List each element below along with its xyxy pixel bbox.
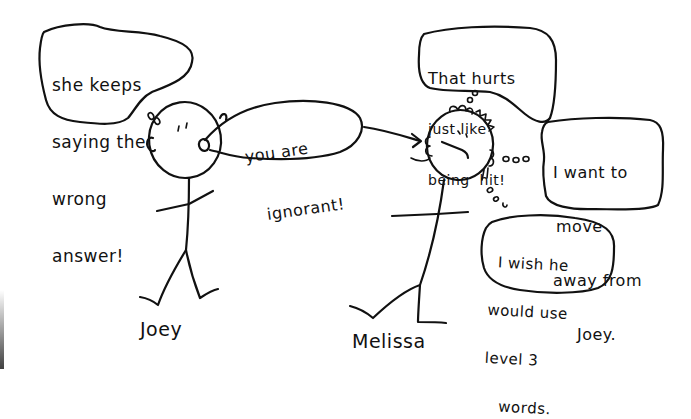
joey-leg-left: [140, 250, 186, 305]
joey-thought-line-2: saying the: [52, 133, 146, 152]
melissa-thought-top-text: That hurts just like being hit!: [428, 36, 516, 223]
melissa-thought-top-line-3: being hit!: [428, 172, 516, 189]
melissa-leg-right: [418, 285, 446, 323]
melissa-thought-bottom-line-4: words.: [482, 398, 563, 418]
joey-leg-right: [186, 250, 218, 298]
joey-thought-line-3: wrong: [52, 190, 146, 209]
joey-eye-right: [186, 123, 187, 128]
melissa-thought-right-line-1: I want to: [553, 164, 642, 182]
melissa-thought-top-line-2: just like: [428, 121, 516, 138]
joey-arms: [157, 191, 213, 211]
joey-body: [186, 178, 189, 250]
melissa-thought-bottom-line-1: I wish he: [489, 254, 570, 274]
melissa-name-label: Melissa: [352, 330, 426, 352]
joey-thought-line-4: answer!: [52, 247, 146, 266]
joey-head: [144, 97, 226, 182]
melissa-thought-bottom-line-3: level 3: [484, 350, 565, 370]
joey-speech-line-1: you are: [244, 135, 338, 168]
melissa-thought-bottom-line-2: would use: [487, 302, 568, 322]
joey-name-label: Joey: [140, 318, 182, 340]
melissa-leg-left: [350, 285, 420, 318]
arrow: [364, 127, 421, 147]
joey-eye-left: [178, 126, 179, 131]
scan-edge-shadow: [0, 290, 4, 369]
melissa-thought-top-line-1: That hurts: [428, 70, 516, 87]
joey-ear-right: [220, 114, 226, 120]
joey-thought-text: she keeps saying the wrong answer!: [52, 38, 146, 304]
joey-speech-line-2: ignorant!: [252, 194, 346, 227]
melissa-thought-bottom-text: I wish he would use level 3 words.: [480, 222, 572, 419]
joey-thought-line-1: she keeps: [52, 76, 146, 95]
joey-figure: [140, 97, 226, 305]
